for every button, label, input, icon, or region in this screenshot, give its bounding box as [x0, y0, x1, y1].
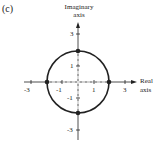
x-tick-label: 3 — [123, 87, 127, 94]
x-tick-label: -3 — [24, 87, 30, 94]
y-tick-label: 3 — [70, 31, 74, 38]
x-tick-label: 1 — [92, 87, 96, 94]
y-axis-arrow-icon — [76, 22, 80, 28]
x-tick-label: -1 — [56, 87, 62, 94]
y-tick-label: -1 — [67, 95, 73, 102]
y-tick-label: 1 — [70, 63, 74, 70]
x-axis-arrow-icon — [131, 80, 137, 84]
y-tick-label: -3 — [67, 127, 73, 134]
complex-plane-diagram — [0, 0, 162, 149]
